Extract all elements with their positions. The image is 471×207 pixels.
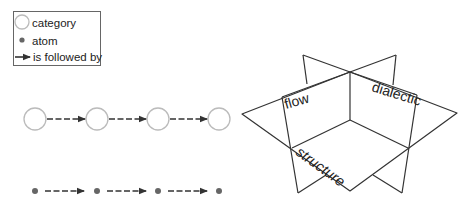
dialectic-plane-bottom-edge	[373, 175, 402, 193]
flow-label: flow	[282, 89, 311, 111]
atom-sequence	[32, 188, 222, 194]
dialectic-plane-top-back	[303, 55, 350, 72]
category-circle-icon	[86, 108, 108, 130]
flow-plane-top-back	[350, 55, 396, 72]
structure-diagonal-right	[350, 120, 408, 148]
atom-dot-icon	[216, 188, 222, 194]
dialectic-label: dialectic	[370, 79, 423, 109]
legend-label-followed: is followed by	[33, 51, 102, 63]
atom-dot-icon	[155, 188, 161, 194]
category-circle-icon	[147, 108, 169, 130]
dialectic-plane-back-edge	[303, 55, 307, 84]
flow-plane-bottom-edge	[298, 175, 326, 193]
legend-label-atom: atom	[32, 35, 58, 47]
legend: category atom is followed by	[14, 12, 103, 66]
category-sequence	[24, 108, 230, 130]
planes-diagram	[242, 55, 457, 193]
diagram-canvas: category atom is followed by	[0, 0, 471, 207]
flow-plane-back-edge	[393, 55, 396, 85]
atom-dot-icon	[94, 188, 100, 194]
structure-diagonal-left	[292, 120, 350, 148]
structure-label: structure	[293, 143, 348, 189]
legend-label-category: category	[32, 17, 76, 29]
category-circle-icon	[208, 108, 230, 130]
atom-dot-icon	[32, 188, 38, 194]
flow-plane-left-edge	[282, 97, 298, 193]
atom-legend-icon	[19, 37, 24, 42]
category-circle-icon	[24, 108, 46, 130]
